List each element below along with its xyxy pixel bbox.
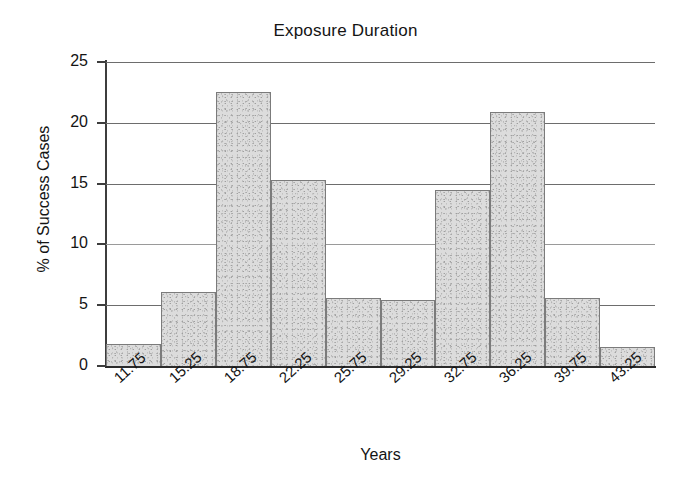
- gridline-10: [106, 244, 655, 245]
- y-tick-label-text: 0: [42, 357, 88, 373]
- y-axis-title: % of Success Cases: [35, 69, 53, 329]
- y-tick-mark-15: [97, 183, 106, 185]
- x-axis-title: Years: [106, 446, 655, 464]
- y-tick-label: 0: [42, 357, 88, 373]
- y-tick-mark-5: [97, 304, 106, 306]
- y-tick-mark-0: [97, 365, 106, 367]
- y-tick-mark-10: [97, 243, 106, 245]
- gridline-15: [106, 184, 655, 185]
- y-tick-label-text: 25: [42, 53, 88, 69]
- gridline-25: [106, 62, 655, 63]
- gridline-20: [106, 123, 655, 124]
- chart-container: Exposure Duration 0510152025 11.7515.251…: [0, 0, 691, 478]
- y-tick-mark-25: [97, 61, 106, 63]
- y-tick-label: 25: [42, 53, 88, 69]
- chart-title: Exposure Duration: [0, 21, 691, 41]
- y-tick-mark-20: [97, 122, 106, 124]
- plot-area: [106, 62, 655, 366]
